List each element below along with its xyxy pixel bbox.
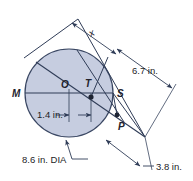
geometry-figure: M O T S P x 6.7 in. 3.8 in. 1.4 in. 8.6 … <box>0 0 193 181</box>
dimension-label-6-7: 6.7 in. <box>132 65 158 76</box>
point-label-S: S <box>117 88 124 99</box>
point-dot-T <box>88 94 93 99</box>
dimension-label-3-8: 3.8 in. <box>156 161 182 172</box>
point-dot-P <box>115 113 120 118</box>
extension-line-lower-right <box>145 137 152 170</box>
point-label-O: O <box>61 79 69 90</box>
dimension-label-x: x <box>86 26 97 39</box>
dimension-label-diameter: 8.6 in. DIA <box>22 154 67 165</box>
point-label-M: M <box>12 88 21 99</box>
point-label-T: T <box>85 78 92 89</box>
extension-line-right <box>145 84 176 137</box>
dimension-label-1-4: 1.4 in. <box>37 109 63 120</box>
diagram-canvas: M O T S P x 6.7 in. 3.8 in. 1.4 in. 8.6 … <box>0 0 193 181</box>
dimension-line-3-8 <box>106 140 140 166</box>
leader-line-diameter <box>66 140 72 159</box>
dimension-line-x <box>72 23 116 54</box>
point-label-P: P <box>118 121 125 132</box>
